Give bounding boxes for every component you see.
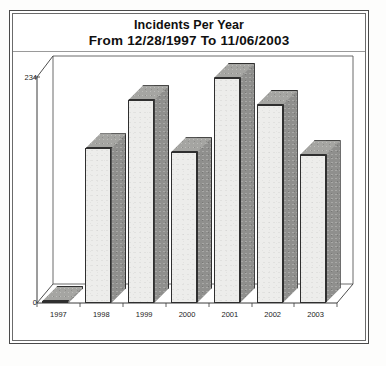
bar-2000	[171, 137, 212, 303]
bar-side-face	[154, 85, 169, 303]
bar-front-face	[128, 100, 154, 303]
x-axis-label-2002: 2002	[256, 310, 290, 319]
x-axis-label-2003: 2003	[299, 310, 333, 319]
bar-front-face	[42, 301, 68, 303]
bar-front-face	[300, 155, 326, 303]
bar-2002	[257, 90, 298, 303]
x-axis-label-1999: 1999	[127, 310, 161, 319]
bar-side-face	[111, 133, 126, 303]
chart-title: Incidents Per Year	[13, 18, 365, 33]
bar-1999	[128, 85, 169, 303]
bar-side-face	[283, 90, 298, 303]
bar-2001	[214, 63, 255, 303]
chart-title-block: Incidents Per Year From 12/28/1997 To 11…	[13, 14, 365, 48]
x-axis-label-2000: 2000	[170, 310, 204, 319]
x-axis-labels: 1997199819992000200120022003	[13, 310, 365, 326]
bar-side-face	[326, 140, 341, 303]
bar-series	[13, 52, 365, 341]
x-axis-label-2001: 2001	[213, 310, 247, 319]
plot-area: 234 0 1997199819992000200120022003	[13, 52, 365, 341]
bar-front-face	[171, 152, 197, 303]
bar-2003	[300, 140, 341, 303]
bar-side-face	[197, 137, 212, 303]
bar-front-face	[257, 105, 283, 303]
scanned-page: Incidents Per Year From 12/28/1997 To 11…	[0, 0, 386, 366]
bar-1998	[85, 133, 126, 303]
x-axis-label-1997: 1997	[41, 310, 75, 319]
chart-subtitle: From 12/28/1997 To 11/06/2003	[13, 33, 365, 48]
bar-1997	[42, 286, 83, 303]
bar-front-face	[85, 148, 111, 303]
bar-front-face	[214, 78, 240, 303]
x-axis-label-1998: 1998	[84, 310, 118, 319]
bar-side-face	[240, 63, 255, 303]
